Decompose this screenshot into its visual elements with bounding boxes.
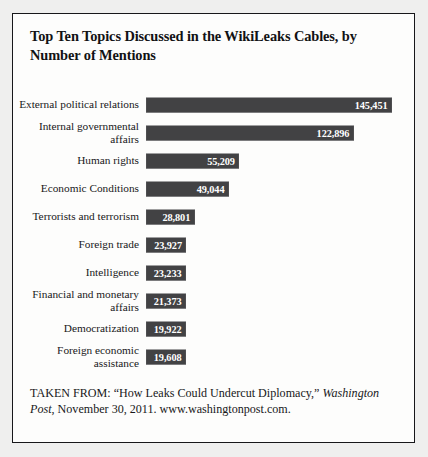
bar-row: Intelligence23,233 — [13, 259, 414, 287]
bar-row: External political relations145,451 — [13, 91, 414, 119]
bar: 122,896 — [146, 126, 354, 141]
bar: 19,608 — [146, 350, 186, 365]
bar-value-label: 28,801 — [162, 212, 194, 223]
bar-track: 19,608 — [146, 343, 414, 371]
bar-track: 28,801 — [146, 203, 414, 231]
bar-row: Foreign economic assistance19,608 — [13, 343, 414, 371]
bar-chart-plot: External political relations145,451Inter… — [13, 91, 414, 371]
figure-inner: Top Ten Topics Discussed in the WikiLeak… — [13, 14, 414, 442]
bar-category-label: Financial and monetary affairs — [13, 288, 146, 314]
bar-value-label: 19,608 — [154, 352, 186, 363]
bar-row: Terrorists and terrorism28,801 — [13, 203, 414, 231]
bar-track: 49,044 — [146, 175, 414, 203]
bar-value-label: 23,927 — [154, 240, 186, 251]
bar-category-label: Foreign trade — [13, 238, 146, 251]
bar-value-label: 23,233 — [154, 268, 186, 279]
figure-frame: Top Ten Topics Discussed in the WikiLeak… — [12, 13, 415, 443]
bar-track: 23,233 — [146, 259, 414, 287]
bar-category-label: External political relations — [13, 98, 146, 111]
bar-category-label: Terrorists and terrorism — [13, 210, 146, 223]
bar: 55,209 — [146, 154, 239, 169]
bar-category-label: Foreign economic assistance — [13, 344, 146, 370]
bar-value-label: 49,044 — [197, 184, 229, 195]
bar: 23,233 — [146, 266, 186, 281]
bar: 28,801 — [146, 210, 195, 225]
bar: 145,451 — [146, 98, 392, 113]
bar-track: 122,896 — [146, 119, 414, 147]
bar-track: 19,922 — [146, 315, 414, 343]
bar-track: 21,373 — [146, 287, 414, 315]
bar-category-label: Human rights — [13, 154, 146, 167]
bar-row: Internal governmental affairs122,896 — [13, 119, 414, 147]
bar-value-label: 55,209 — [207, 156, 239, 167]
source-prefix: TAKEN FROM: “How Leaks Could Undercut Di… — [30, 386, 322, 400]
source-suffix: , November 30, 2011. www.washingtonpost.… — [52, 402, 291, 416]
bar-category-label: Democratization — [13, 322, 146, 335]
chart-title: Top Ten Topics Discussed in the WikiLeak… — [30, 27, 382, 65]
bar: 19,922 — [146, 322, 186, 337]
bar-value-label: 122,896 — [317, 128, 354, 139]
bar-row: Foreign trade23,927 — [13, 231, 414, 259]
bar: 21,373 — [146, 294, 186, 309]
bar-value-label: 21,373 — [154, 296, 186, 307]
bar-category-label: Internal governmental affairs — [13, 120, 146, 146]
source-note: TAKEN FROM: “How Leaks Could Undercut Di… — [30, 385, 394, 418]
bar-row: Democratization19,922 — [13, 315, 414, 343]
bar-track: 55,209 — [146, 147, 414, 175]
bar-row: Human rights55,209 — [13, 147, 414, 175]
bar: 23,927 — [146, 238, 186, 253]
bar-value-label: 19,922 — [154, 324, 186, 335]
bar-track: 23,927 — [146, 231, 414, 259]
bar-row: Financial and monetary affairs21,373 — [13, 287, 414, 315]
bar-row: Economic Conditions49,044 — [13, 175, 414, 203]
bar-category-label: Intelligence — [13, 266, 146, 279]
bar-track: 145,451 — [146, 91, 414, 119]
bar: 49,044 — [146, 182, 229, 197]
bar-value-label: 145,451 — [355, 100, 392, 111]
bar-category-label: Economic Conditions — [13, 182, 146, 195]
